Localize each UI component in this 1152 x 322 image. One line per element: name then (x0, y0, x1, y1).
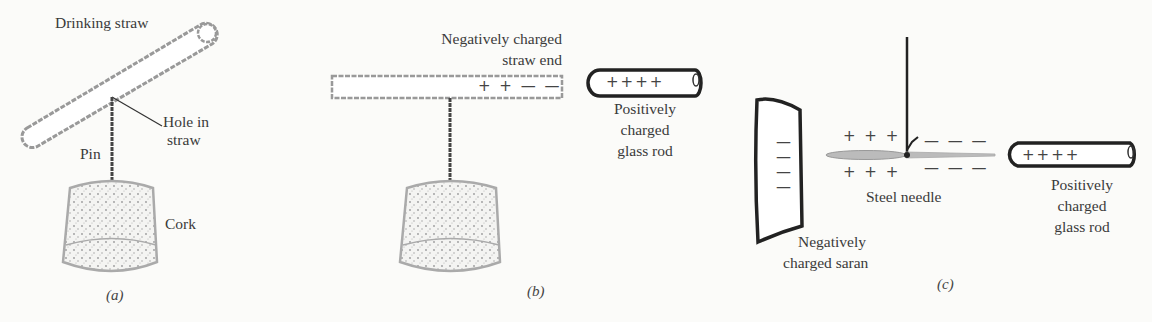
label-rod-c-line1: Positively (1032, 175, 1132, 194)
label-hole-line2: straw (167, 130, 201, 149)
cork-icon (400, 181, 500, 271)
label-rod-b-line3: glass rod (595, 141, 695, 160)
needle-charges-right-bottom: — — — (924, 159, 989, 177)
caption-b: (b) (527, 283, 545, 300)
label-rod-c-line2: charged (1032, 196, 1132, 215)
straw-charges: + + — — (478, 77, 561, 95)
label-negatively-charged: Negatively charged (410, 29, 562, 48)
label-rod-b-line2: charged (595, 120, 695, 139)
caption-a: (a) (106, 287, 124, 304)
rod-charges-c: ++++ (1022, 146, 1080, 164)
label-rod-c-line3: glass rod (1032, 217, 1132, 236)
label-steel-needle: Steel needle (866, 187, 941, 206)
needle-charges-left-bottom: + + + (843, 163, 900, 181)
label-drinking-straw: Drinking straw (55, 13, 148, 32)
rod-charges-b: ++++ (606, 73, 664, 91)
label-cork: Cork (165, 214, 196, 233)
label-saran-line2: charged saran (783, 253, 868, 272)
label-rod-b-line1: Positively (595, 99, 695, 118)
hole-pointer-line (112, 97, 162, 126)
label-hole-line1: Hole in (163, 112, 209, 131)
cork-icon (63, 181, 157, 271)
caption-c: (c) (937, 276, 954, 293)
needle-charges-right-top: — — — (924, 132, 989, 150)
label-saran-line1: Negatively (798, 232, 866, 251)
label-straw-end: straw end (410, 50, 562, 69)
label-pin: Pin (80, 144, 101, 163)
saran-charge-4: — (776, 180, 793, 195)
needle-charges-left-top: + + + (843, 127, 900, 145)
